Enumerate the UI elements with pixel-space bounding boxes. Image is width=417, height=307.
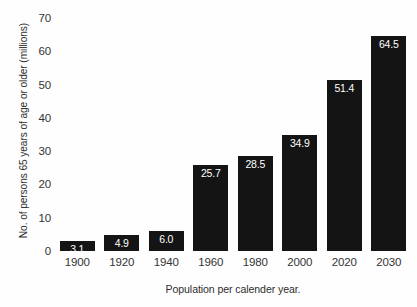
- bar-2000[interactable]: 34.9: [282, 18, 317, 251]
- x-axis-tick-label: 1980: [233, 256, 277, 268]
- bar-value-label: 51.4: [327, 83, 362, 94]
- bar-rect: 34.9: [282, 135, 317, 251]
- bar-value-label: 6.0: [149, 234, 184, 245]
- bar-1980[interactable]: 28.5: [238, 18, 273, 251]
- bar-rect: 25.7: [193, 165, 228, 251]
- bar-1900[interactable]: 3.1: [60, 18, 95, 251]
- y-axis-tick-label: 30: [29, 145, 51, 157]
- bar-rect: 3.1: [60, 241, 95, 251]
- x-axis-tick-labels: 19001920194019601980200020202030: [55, 256, 411, 274]
- x-axis-tick-label: 1960: [189, 256, 233, 268]
- y-axis-tick-label: 0: [29, 245, 51, 257]
- x-axis-tick-label: 1940: [144, 256, 188, 268]
- bar-1920[interactable]: 4.9: [104, 18, 139, 251]
- bar-rect: 51.4: [327, 80, 362, 251]
- bar-value-label: 28.5: [238, 159, 273, 170]
- bar-1940[interactable]: 6.0: [149, 18, 184, 251]
- y-axis-tick-label: 40: [29, 112, 51, 124]
- y-axis-tick-label: 10: [29, 212, 51, 224]
- x-axis-tick-label: 2020: [322, 256, 366, 268]
- y-axis-tick-label: 60: [29, 45, 51, 57]
- bar-value-label: 25.7: [193, 168, 228, 179]
- y-axis-tick-label: 20: [29, 178, 51, 190]
- x-axis-tick-label: 1920: [100, 256, 144, 268]
- bar-2030[interactable]: 64.5: [371, 18, 406, 251]
- bar-rect: 4.9: [104, 235, 139, 251]
- x-axis-tick-label: 2030: [367, 256, 411, 268]
- bar-value-label: 4.9: [104, 238, 139, 249]
- y-axis-tick-label: 70: [29, 12, 51, 24]
- x-axis-tick-label: 1900: [55, 256, 99, 268]
- bar-value-label: 3.1: [60, 244, 95, 255]
- bar-rect: 64.5: [371, 36, 406, 251]
- x-axis-tick-label: 2000: [278, 256, 322, 268]
- bar-1960[interactable]: 25.7: [193, 18, 228, 251]
- bar-value-label: 34.9: [282, 138, 317, 149]
- x-axis-title: Population per calender year.: [55, 283, 411, 295]
- y-axis-tick-label: 50: [29, 79, 51, 91]
- bar-value-label: 64.5: [371, 39, 406, 50]
- bar-2020[interactable]: 51.4: [327, 18, 362, 251]
- bar-rect: 28.5: [238, 156, 273, 251]
- bar-chart-figure: No. of persons 65 years of age or older …: [0, 0, 417, 307]
- bar-rect: 6.0: [149, 231, 184, 251]
- y-axis-tick-labels: 010203040506070: [27, 18, 51, 251]
- plot-area: 3.14.96.025.728.534.951.464.5: [55, 18, 411, 251]
